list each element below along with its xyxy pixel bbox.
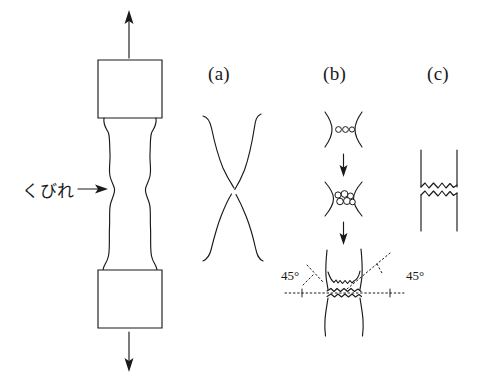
specimen-left-contour — [103, 118, 115, 270]
stage1-right-neck — [355, 112, 362, 147]
microvoid — [343, 127, 349, 133]
panel-b-label: (b) — [323, 63, 346, 85]
angle-guide-right — [347, 253, 390, 289]
panel-c-label: (c) — [427, 63, 449, 85]
angle-label-left: 45° — [281, 268, 299, 284]
panel-b-progress-arrow-2-icon — [340, 222, 348, 245]
load-arrow-down-icon — [125, 332, 134, 372]
panel-c-upper-fracture-surface — [421, 183, 457, 188]
panel-c-lower-fracture-surface — [421, 191, 457, 196]
angle-tick-left — [303, 275, 313, 285]
stage3-upper-cup-surface — [328, 271, 360, 284]
tensile-fracture-figure: くびれ (a) (b) (c) 45° 45° — [0, 0, 482, 378]
stage1-left-neck — [325, 112, 332, 147]
neck-pointer-arrow-icon — [78, 185, 108, 194]
stage3-fracture-line-upper — [327, 289, 361, 292]
angle-tick-right — [377, 264, 383, 275]
panel-b-stage-3-shear-lip-fracture — [285, 249, 404, 336]
necking-label: くびれ — [22, 177, 75, 202]
microvoid — [349, 127, 354, 132]
angle-guide-left — [307, 265, 323, 282]
specimen-group — [78, 10, 162, 372]
panel-a-lower-left — [203, 194, 232, 261]
panel-a-drawing — [203, 114, 263, 261]
stage3-upper-left-contour — [326, 250, 328, 290]
stage3-fracture-line-lower — [327, 294, 362, 297]
panel-b-stage-2-void-coalescence — [325, 182, 362, 216]
stage3-lower-right-contour — [360, 298, 363, 336]
stage3-lower-left-contour — [325, 298, 328, 336]
stage3-upper-right-contour — [360, 249, 362, 290]
microvoid — [341, 191, 348, 198]
stage2-right-neck — [354, 182, 363, 216]
panel-b-drawing — [285, 112, 404, 336]
microvoid — [337, 198, 344, 205]
panel-b-stage-1-void-nucleation — [325, 112, 362, 147]
panel-a-upper-right — [235, 114, 261, 190]
microvoid — [335, 192, 341, 198]
stage2-left-neck — [325, 182, 334, 216]
angle-label-right: 45° — [406, 268, 424, 284]
microvoid — [336, 127, 342, 133]
panel-b-progress-arrow-1-icon — [340, 154, 348, 177]
specimen-right-contour — [145, 118, 157, 270]
panel-a-upper-left — [203, 116, 234, 188]
microvoid — [350, 199, 356, 205]
panel-a-label: (a) — [208, 63, 230, 85]
panel-a-lower-right — [236, 195, 263, 262]
panel-c-drawing — [421, 150, 457, 231]
load-arrow-up-icon — [125, 10, 134, 58]
specimen-top-grip — [98, 60, 162, 118]
specimen-bottom-grip — [98, 270, 162, 328]
